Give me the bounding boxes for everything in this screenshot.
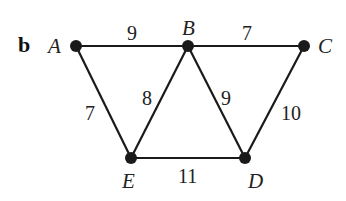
weight-b-d: 9 (221, 87, 231, 109)
panel-label: b (18, 32, 30, 57)
node-e (125, 152, 137, 164)
weight-a-e: 7 (85, 102, 95, 124)
node-a (70, 40, 82, 52)
node-b (182, 40, 194, 52)
node-label-b: B (182, 16, 195, 40)
weight-b-e: 8 (142, 87, 152, 109)
node-label-e: E (121, 169, 135, 193)
edge-b-e (131, 46, 188, 158)
node-c (298, 40, 310, 52)
weighted-graph-diagram: b 9 7 7 8 9 10 11 A B C E D (0, 0, 346, 201)
weight-a-b: 9 (127, 22, 137, 44)
weight-b-c: 7 (242, 22, 252, 44)
node-label-a: A (46, 34, 61, 58)
node-d (239, 152, 251, 164)
node-label-d: D (247, 169, 263, 193)
weight-c-d: 10 (281, 102, 301, 124)
node-label-c: C (318, 34, 333, 58)
weight-e-d: 11 (178, 165, 197, 187)
edge-b-d (188, 46, 245, 158)
